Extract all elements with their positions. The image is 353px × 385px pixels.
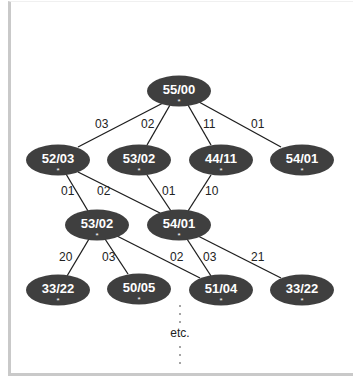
star-marker-icon: *: [95, 231, 98, 240]
star-marker-icon: *: [137, 295, 140, 304]
tree-node: 55/00*: [147, 76, 211, 107]
tree-node: 53/02*: [65, 210, 129, 241]
node-label: 51/04: [205, 281, 238, 296]
edge-label: 03: [203, 250, 217, 264]
tree-node: 51/04*: [189, 275, 253, 306]
node-label: 53/02: [81, 216, 114, 231]
ellipsis-dot-icon: [179, 354, 181, 356]
node-label: 54/01: [286, 151, 319, 166]
star-marker-icon: *: [56, 296, 59, 305]
etc-label: etc.: [170, 326, 189, 340]
node-label: 50/05: [123, 280, 156, 295]
edge-label: 21: [251, 250, 265, 264]
star-marker-icon: *: [177, 231, 180, 240]
edge-label: 01: [61, 184, 75, 198]
node-label: 53/02: [123, 151, 156, 166]
tree-node: 53/02*: [107, 145, 171, 176]
star-marker-icon: *: [219, 166, 222, 175]
edge-label: 10: [205, 184, 219, 198]
ellipsis-dot-icon: [179, 346, 181, 348]
ellipsis-dot-icon: [179, 313, 181, 315]
tree-node: 54/01*: [270, 145, 334, 176]
ellipsis-dot-icon: [179, 362, 181, 364]
node-label: 52/03: [42, 151, 75, 166]
edge-line: [78, 172, 160, 213]
tree-node: 33/22*: [270, 275, 334, 306]
node-label: 33/22: [286, 281, 319, 296]
edge-label: 20: [59, 250, 73, 264]
edge-label: 11: [203, 117, 216, 131]
edge-line: [117, 236, 200, 278]
tree-node: 44/11*: [189, 145, 253, 176]
edge-labels-layer: 03021101010201102003020321: [59, 117, 265, 264]
node-label: 55/00: [163, 82, 196, 97]
node-label: 54/01: [163, 216, 196, 231]
star-marker-icon: *: [300, 166, 303, 175]
edge-label: 01: [162, 184, 176, 198]
tree-node: 52/03*: [26, 145, 90, 176]
star-marker-icon: *: [177, 97, 180, 106]
node-label: 44/11: [205, 151, 237, 166]
edge-label: 01: [251, 117, 265, 131]
ellipsis-dot-icon: [179, 321, 181, 323]
tree-node: 50/05*: [107, 274, 171, 305]
edge-label: 03: [95, 117, 109, 131]
edge-label: 02: [97, 184, 111, 198]
star-marker-icon: *: [56, 166, 59, 175]
edge-label: 02: [141, 117, 155, 131]
continuation-layer: etc.: [170, 305, 189, 364]
star-marker-icon: *: [300, 296, 303, 305]
node-label: 33/22: [42, 281, 75, 296]
edge-label: 03: [102, 250, 116, 264]
star-marker-icon: *: [137, 166, 140, 175]
tree-node: 33/22*: [26, 275, 90, 306]
star-marker-icon: *: [219, 296, 222, 305]
tree-node: 54/01*: [147, 210, 211, 241]
edge-label: 02: [170, 250, 184, 264]
ellipsis-dot-icon: [179, 305, 181, 307]
